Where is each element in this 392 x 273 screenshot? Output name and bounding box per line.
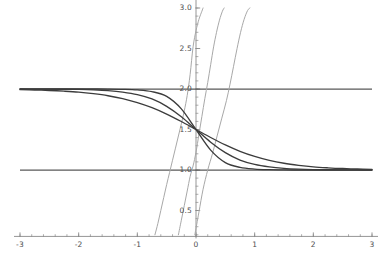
x-tick-label: -1 [127,240,147,249]
light-curve-group [155,8,250,235]
plot-canvas [0,0,392,273]
x-tick-label: 2 [303,240,323,249]
y-tick-label: 1.0 [172,165,192,174]
chart-figure: 0.51.01.52.02.53.0-3-2-10123 [0,0,392,273]
x-tick-label: -2 [69,240,89,249]
y-tick-label: 3.0 [172,3,192,12]
steep-rising-curve-c [195,8,250,235]
x-tick-label: 3 [362,240,382,249]
x-tick-label: 1 [245,240,265,249]
y-tick-label: 2.0 [172,84,192,93]
y-tick-label: 1.5 [172,125,192,134]
y-tick-label: 2.5 [172,44,192,53]
y-tick-label: 0.5 [172,206,192,215]
x-tick-label: 0 [186,240,206,249]
x-tick-label: -3 [10,240,30,249]
